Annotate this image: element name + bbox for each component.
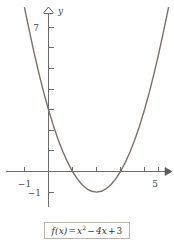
formula-minus: −: [86, 226, 96, 236]
formula-plus: +: [107, 226, 117, 236]
formula-lhs: f(x): [52, 226, 68, 236]
formula-equals: =: [67, 226, 77, 236]
x-tick-label-5: 5: [152, 179, 158, 189]
y-axis-label: y: [57, 6, 64, 16]
arrow-up-icon: [44, 7, 54, 13]
y-tick-label-7: 7: [33, 23, 39, 33]
formula-text: f(x)=x2−4x+3: [52, 226, 123, 236]
formula-box: f(x)=x2−4x+3: [44, 222, 130, 239]
coordinate-plot: 7 −1 −1 5 y: [0, 0, 174, 212]
x-tick-label-minus-1: −1: [18, 179, 31, 189]
figure-container: 7 −1 −1 5 y f(x)=x2−4x+3: [0, 0, 174, 242]
plot-area: 7 −1 −1 5 y: [0, 0, 174, 212]
y-tick-label-minus-1: −1: [28, 188, 41, 198]
parabola-curve: [25, 8, 169, 192]
formula-term2: 4x: [96, 226, 107, 236]
formula-term3: 3: [117, 226, 123, 236]
arrow-right-icon: [165, 168, 172, 176]
